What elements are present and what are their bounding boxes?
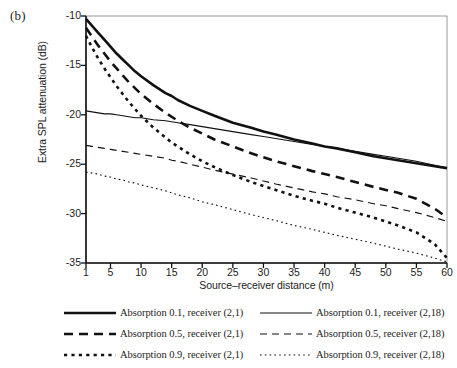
figure-panel-b: (b) Extra SPL attenuation (dB) Source–re…: [0, 0, 457, 368]
chart-legend: Absorption 0.1, receiver (2,1)Absorption…: [62, 303, 452, 365]
legend-line-sample: [62, 348, 118, 362]
legend-label: Absorption 0.9, receiver (2,18): [316, 349, 445, 360]
x-tick-label-text: 55: [401, 266, 431, 278]
legend-item: Absorption 0.1, receiver (2,18): [258, 303, 445, 322]
data-curves: [86, 19, 447, 262]
x-tick-label: 30: [248, 266, 278, 279]
legend-item: Absorption 0.9, receiver (2,1): [62, 345, 243, 364]
x-tick-label: 15: [157, 266, 187, 279]
x-tick-label-text: 10: [126, 266, 156, 278]
legend-label: Absorption 0.9, receiver (2,1): [120, 349, 243, 360]
x-tick-label: 40: [310, 266, 340, 279]
y-tick-label: -20: [56, 108, 81, 120]
x-tick-label: 45: [340, 266, 370, 279]
x-tick-label-text: 20: [187, 266, 217, 278]
legend-item: Absorption 0.5, receiver (2,18): [258, 324, 445, 343]
y-tick-label-text: -10: [56, 9, 81, 21]
x-tick-label-text: 40: [310, 266, 340, 278]
y-tick-label-text: -25: [56, 157, 81, 169]
x-tick-label-text: 45: [340, 266, 370, 278]
y-tick-label: -10: [56, 9, 81, 21]
x-tick-label: 60: [432, 266, 457, 279]
y-tick-label-text: -30: [56, 207, 81, 219]
curve-0.9-218: [86, 172, 447, 262]
x-tick-label-text: 30: [248, 266, 278, 278]
y-tick-label-text: -20: [56, 108, 81, 120]
x-tick-label: 55: [401, 266, 431, 279]
x-tick-label: 25: [218, 266, 248, 279]
x-tick-label-text: 25: [218, 266, 248, 278]
legend-line-sample: [258, 348, 314, 362]
x-tick-label: 10: [126, 266, 156, 279]
axis-ticks: [81, 16, 447, 268]
x-tick-label-text: 50: [371, 266, 401, 278]
y-tick-label: -25: [56, 157, 81, 169]
x-tick-label-text: 35: [279, 266, 309, 278]
legend-label: Absorption 0.1, receiver (2,18): [316, 307, 445, 318]
x-axis-title: Source–receiver distance (m): [86, 279, 447, 291]
legend-line-sample: [62, 306, 118, 320]
y-tick-label: -15: [56, 58, 81, 70]
axes-group: [86, 16, 447, 263]
x-tick-label: 50: [371, 266, 401, 279]
legend-line-sample: [258, 306, 314, 320]
x-tick-label: 35: [279, 266, 309, 279]
x-tick-label-text: 60: [432, 266, 457, 278]
y-axis-title: Extra SPL attenuation (dB): [36, 12, 48, 192]
curve-0.5-21: [86, 28, 447, 218]
legend-item: Absorption 0.1, receiver (2,1): [62, 303, 243, 322]
curve-0.1-21: [86, 19, 447, 168]
legend-line-sample: [258, 327, 314, 341]
legend-item: Absorption 0.9, receiver (2,18): [258, 345, 445, 364]
legend-label: Absorption 0.5, receiver (2,1): [120, 328, 243, 339]
x-tick-label-text: 5: [95, 266, 125, 278]
curve-0.9-21: [86, 36, 447, 258]
legend-line-sample: [62, 327, 118, 341]
legend-item: Absorption 0.5, receiver (2,1): [62, 324, 243, 343]
legend-label: Absorption 0.5, receiver (2,18): [316, 328, 445, 339]
legend-label: Absorption 0.1, receiver (2,1): [120, 307, 243, 318]
x-tick-label-text: 15: [157, 266, 187, 278]
y-tick-label: -30: [56, 207, 81, 219]
x-tick-label: 5: [95, 266, 125, 279]
curve-0.5-218: [86, 145, 447, 221]
y-tick-label-text: -15: [56, 58, 81, 70]
x-tick-label: 20: [187, 266, 217, 279]
